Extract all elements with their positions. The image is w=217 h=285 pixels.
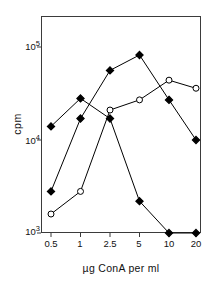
data-point <box>106 67 113 74</box>
data-point <box>47 188 54 195</box>
data-point <box>137 97 143 103</box>
figure-panel: 105 104 103 0.5 1 2.5 5 10 20 cpm µg Con… <box>0 0 217 285</box>
series-filled-peak-mid <box>47 51 199 195</box>
data-point <box>107 107 113 113</box>
series-filled-peak-early <box>47 95 199 237</box>
data-point <box>166 77 172 83</box>
series-line <box>51 55 196 191</box>
series-open-rising <box>48 77 199 217</box>
plot-data-layer <box>0 0 217 285</box>
series-line <box>51 80 196 214</box>
data-point <box>192 229 199 236</box>
data-point <box>77 115 84 122</box>
data-point <box>48 211 54 217</box>
data-point <box>78 188 84 194</box>
data-point <box>192 136 199 143</box>
data-point <box>193 85 199 91</box>
data-point <box>165 96 172 103</box>
series-line <box>51 98 196 233</box>
data-point <box>136 51 143 58</box>
